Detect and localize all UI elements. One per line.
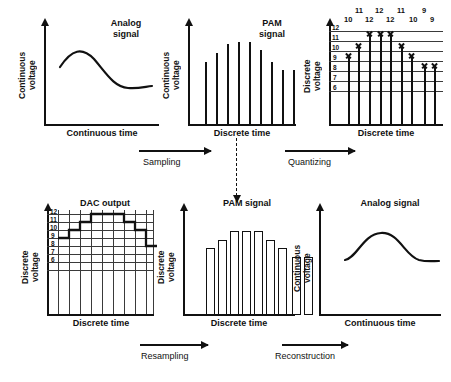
y-axis-label: Discrete voltage — [21, 232, 41, 302]
sample-x-marker-icon — [421, 62, 428, 69]
quantizer-stem — [369, 33, 371, 124]
sample-x-marker-icon — [366, 30, 373, 37]
flow-connector-dashed-arrow-icon — [236, 138, 237, 196]
quantizer-stem — [358, 45, 360, 124]
sample-x-marker-icon — [377, 30, 384, 37]
pam-bar — [206, 248, 215, 315]
x-axis-label: Discrete time — [46, 318, 156, 328]
resampling-arrow-icon — [140, 344, 208, 346]
y-axis-label: Continuous voltage — [18, 40, 38, 110]
pam-spike — [216, 53, 218, 124]
quantizer-stem — [411, 55, 413, 124]
y-axis-label: Continuous voltage — [162, 40, 182, 110]
reconstruction-label: Reconstruction — [275, 351, 335, 361]
dac-staircase-waveform — [47, 205, 157, 285]
quantization-gridline — [329, 41, 443, 42]
sample-value-label: 9 — [430, 16, 434, 24]
sample-x-marker-icon — [345, 52, 352, 59]
pam-bar — [278, 248, 287, 315]
panel-title: PAM signal — [248, 18, 296, 39]
x-axis-label: Discrete time — [182, 318, 296, 328]
analog-waveform — [44, 25, 162, 125]
panel-title: Analog signal — [345, 198, 435, 209]
x-axis-label: Discrete time — [186, 128, 298, 138]
resampling-label: Resampling — [141, 351, 189, 361]
sample-value-label: 10 — [344, 16, 352, 24]
sample-x-marker-icon — [355, 42, 362, 49]
y-axis-line — [329, 25, 331, 125]
sample-value-label: 11 — [397, 7, 405, 15]
pam-spike — [205, 62, 207, 124]
pam-bar — [218, 240, 227, 315]
quantizing-label: Quantizing — [288, 157, 331, 167]
y-tick-label: 12 — [332, 24, 339, 31]
quantizer-stem — [434, 65, 436, 124]
sample-x-marker-icon — [398, 42, 405, 49]
sample-x-marker-icon — [431, 62, 438, 69]
reconstructed-waveform — [319, 208, 443, 308]
signal-conversion-figure: Continuous voltage Continuous time Analo… — [0, 0, 451, 382]
pam-spike — [227, 44, 229, 124]
y-tick-label: 7 — [333, 74, 337, 81]
x-axis-line — [319, 314, 441, 316]
y-tick-label: 11 — [332, 34, 339, 41]
quantizer-stem — [390, 33, 392, 124]
quantizer-stem — [348, 55, 350, 124]
y-tick-label: 6 — [333, 84, 337, 91]
sample-value-label: 11 — [355, 7, 363, 15]
x-axis-line — [329, 124, 443, 126]
pam-spike — [282, 70, 284, 124]
pam-bar — [230, 231, 239, 315]
sample-x-marker-icon — [387, 30, 394, 37]
y-tick-label: 9 — [333, 54, 337, 61]
sample-value-label: 12 — [365, 16, 373, 24]
panel-title: PAM signal — [202, 198, 292, 209]
sampling-label: Sampling — [143, 157, 181, 167]
pam-spike — [260, 50, 262, 124]
y-axis-line — [188, 25, 190, 125]
sample-value-label: 12 — [375, 7, 383, 15]
quantization-gridline — [329, 31, 443, 32]
pam-spike — [271, 62, 273, 124]
y-tick-label: 10 — [332, 44, 339, 51]
y-tick-label: 8 — [333, 64, 337, 71]
sample-value-label: 10 — [409, 16, 417, 24]
sample-x-marker-icon — [408, 52, 415, 59]
pam-spike — [249, 42, 251, 124]
x-axis-label: Continuous time — [318, 318, 442, 328]
y-axis-label: Continuous voltage — [293, 232, 313, 304]
x-axis-label: Continuous time — [44, 128, 160, 138]
pam-spike — [293, 70, 295, 124]
x-axis-line — [188, 124, 296, 126]
y-axis-line — [183, 210, 185, 315]
y-axis-label: Discrete voltage — [157, 232, 177, 302]
quantizing-arrow-icon — [285, 150, 355, 152]
sample-value-label: 12 — [386, 16, 394, 24]
sample-value-label: 9 — [422, 7, 426, 15]
pam-bar — [254, 231, 263, 315]
pam-bar — [242, 231, 251, 315]
y-axis-label: Discrete voltage — [303, 42, 323, 110]
reconstruction-arrow-icon — [282, 344, 348, 346]
quantizer-stem — [424, 65, 426, 124]
x-axis-line — [47, 314, 154, 316]
pam-spike — [238, 42, 240, 124]
pam-bar — [266, 240, 275, 315]
quantizer-stem — [401, 45, 403, 124]
quantizer-stem — [380, 33, 382, 124]
x-axis-label: Discrete time — [328, 128, 444, 138]
sampling-arrow-icon — [139, 150, 211, 152]
